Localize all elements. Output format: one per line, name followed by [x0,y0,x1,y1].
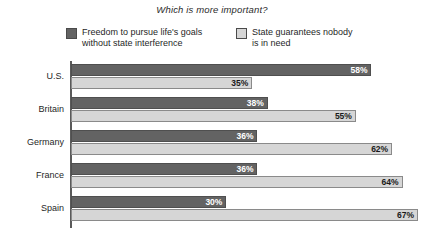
bar-group-spain: Spain 30% 67% [0,196,424,229]
category-label-us: U.S. [0,71,64,81]
chart-legend: Freedom to pursue life's goals without s… [66,27,406,49]
bar-value-germany-freedom: 36% [236,131,256,141]
dark-swatch-icon [66,28,77,39]
bar-value-us-state: 35% [231,78,251,88]
bar-us-freedom[interactable]: 58% [71,64,371,76]
bar-value-france-freedom: 36% [236,164,256,174]
legend-label-freedom: Freedom to pursue life's goals without s… [82,27,202,49]
bar-us-state[interactable]: 35% [71,77,252,89]
bar-group-britain: Britain 38% 55% [0,97,424,130]
bar-group-france: France 36% 64% [0,163,424,196]
bar-france-state[interactable]: 64% [71,176,403,188]
bar-germany-state[interactable]: 62% [71,143,392,155]
bar-france-freedom[interactable]: 36% [71,163,257,175]
category-label-france: France [0,170,64,180]
bar-value-us-freedom: 58% [350,65,370,75]
bar-value-britain-freedom: 38% [247,98,267,108]
bar-groups: U.S. 58% 35% Britain 38% [0,64,424,229]
bar-group-us: U.S. 58% 35% [0,64,424,97]
bar-value-britain-state: 55% [335,111,355,121]
bar-germany-freedom[interactable]: 36% [71,130,257,142]
bar-value-france-state: 64% [382,177,402,187]
legend-label-state: State guarantees nobody is in need [252,27,353,49]
bar-britain-freedom[interactable]: 38% [71,97,268,109]
light-swatch-icon [236,28,247,39]
bar-britain-state[interactable]: 55% [71,110,356,122]
bar-group-germany: Germany 36% 62% [0,130,424,163]
chart-title: Which is more important? [0,4,424,15]
category-label-spain: Spain [0,203,64,213]
category-label-germany: Germany [0,137,64,147]
bar-value-spain-freedom: 30% [205,197,225,207]
bars-france: 36% 64% [71,163,424,189]
bars-us: 58% 35% [71,64,424,90]
legend-item-state[interactable]: State guarantees nobody is in need [236,27,353,49]
bars-britain: 38% 55% [71,97,424,123]
bar-spain-state[interactable]: 67% [71,209,418,221]
bar-value-germany-state: 62% [371,144,391,154]
bar-value-spain-state: 67% [397,210,417,220]
bars-spain: 30% 67% [71,196,424,222]
bar-spain-freedom[interactable]: 30% [71,196,226,208]
legend-item-freedom[interactable]: Freedom to pursue life's goals without s… [66,27,236,49]
plot-area: U.S. 58% 35% Britain 38% [0,61,424,237]
category-label-britain: Britain [0,104,64,114]
chart-container: Which is more important? Freedom to purs… [0,0,424,237]
bars-germany: 36% 62% [71,130,424,156]
